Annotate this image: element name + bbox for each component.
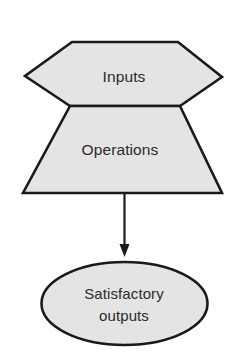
node-satisfactory-outputs[interactable]: Satisfactory outputs xyxy=(42,262,208,345)
node-inputs[interactable]: Inputs xyxy=(25,42,222,106)
connector-operations-to-outputs xyxy=(120,193,130,257)
arrowhead-icon xyxy=(120,244,130,257)
flowchart-diagram: Inputs Operations Satisfactory outputs xyxy=(0,0,237,364)
node-operations-label: Operations xyxy=(82,141,159,158)
node-operations[interactable]: Operations xyxy=(23,106,222,193)
ellipse-shape-satisfactory-outputs xyxy=(42,262,208,345)
node-satisfactory-outputs-label-line2: outputs xyxy=(99,307,149,324)
node-satisfactory-outputs-label-line1: Satisfactory xyxy=(84,285,164,302)
flowchart-canvas: Inputs Operations Satisfactory outputs xyxy=(0,0,237,364)
node-inputs-label: Inputs xyxy=(103,68,146,85)
